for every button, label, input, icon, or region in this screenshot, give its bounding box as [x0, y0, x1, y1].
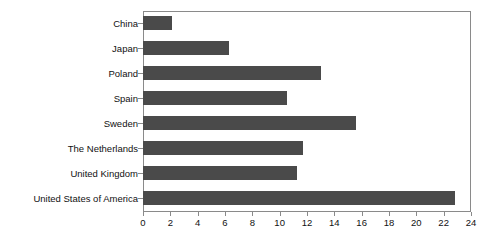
y-axis-tick: [138, 198, 143, 199]
bar-row: [143, 11, 471, 36]
x-axis: 024681012141618202224: [143, 212, 471, 242]
x-axis-tick: [252, 212, 253, 216]
y-axis-category-labels: ChinaJapanPolandSpainSwedenThe Netherlan…: [0, 11, 138, 212]
bar-row: [143, 136, 471, 161]
x-axis-tick-label: 4: [183, 217, 213, 228]
bar: [143, 16, 172, 30]
y-axis-tick: [138, 73, 143, 74]
x-axis-tick-label: 6: [210, 217, 240, 228]
x-axis-tick: [280, 212, 281, 216]
y-axis-tick: [138, 123, 143, 124]
x-axis-tick: [444, 212, 445, 216]
x-axis-tick: [471, 212, 472, 216]
category-label: Spain: [0, 86, 138, 111]
bars-layer: [143, 11, 471, 212]
bar-row: [143, 36, 471, 61]
category-label: The Netherlands: [0, 136, 138, 161]
bar-row: [143, 111, 471, 136]
category-label: Poland: [0, 61, 138, 86]
bar: [143, 191, 455, 205]
x-axis-tick-label: 22: [429, 217, 459, 228]
bar-row: [143, 161, 471, 186]
x-axis-tick: [307, 212, 308, 216]
x-axis-tick-label: 12: [292, 217, 322, 228]
category-label: China: [0, 11, 138, 36]
category-label: United States of America: [0, 186, 138, 211]
x-axis-tick: [334, 212, 335, 216]
x-axis-tick: [225, 212, 226, 216]
y-axis-tick: [138, 98, 143, 99]
x-axis-tick-label: 0: [128, 217, 158, 228]
category-label: United Kingdom: [0, 161, 138, 186]
x-axis-tick: [389, 212, 390, 216]
y-axis-tick: [138, 148, 143, 149]
x-axis-tick-label: 10: [265, 217, 295, 228]
bar-row: [143, 86, 471, 111]
y-axis-tick: [138, 23, 143, 24]
x-axis-tick-label: 2: [155, 217, 185, 228]
x-axis-tick-label: 20: [401, 217, 431, 228]
category-label: Sweden: [0, 111, 138, 136]
bar-row: [143, 61, 471, 86]
x-axis-tick: [198, 212, 199, 216]
bar: [143, 66, 321, 80]
x-axis-tick: [170, 212, 171, 216]
category-label: Japan: [0, 36, 138, 61]
x-axis-tick-label: 16: [347, 217, 377, 228]
bar: [143, 41, 229, 55]
bar: [143, 166, 297, 180]
y-axis-tick: [138, 173, 143, 174]
x-axis-tick-label: 8: [237, 217, 267, 228]
x-axis-tick: [362, 212, 363, 216]
x-axis-tick-label: 14: [319, 217, 349, 228]
x-axis-tick-label: 18: [374, 217, 404, 228]
x-axis-tick-label: 24: [456, 217, 486, 228]
x-axis-tick: [143, 212, 144, 216]
x-axis-tick: [416, 212, 417, 216]
bar: [143, 116, 356, 130]
y-axis-tick: [138, 48, 143, 49]
bar: [143, 91, 287, 105]
bar-chart: ChinaJapanPolandSpainSwedenThe Netherlan…: [0, 0, 490, 252]
bar: [143, 141, 303, 155]
bar-row: [143, 186, 471, 211]
